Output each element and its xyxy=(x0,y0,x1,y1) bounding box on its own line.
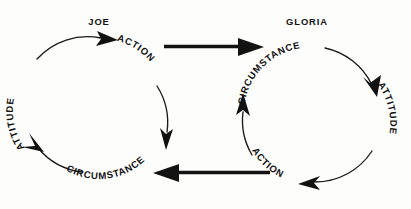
node-label-joe-attitude: ATTITUDE xyxy=(4,97,26,153)
connector-joe-action-to-gloria-circumstance xyxy=(164,38,264,56)
node-label-gloria-action: ACTION xyxy=(250,145,286,179)
node-label-joe-action: ACTION xyxy=(116,32,157,64)
arc-joe-attitude-to-action xyxy=(37,31,118,59)
node-label-joe-circumstance: CIRCUMSTANCE xyxy=(65,153,147,181)
arrowhead-connector-left xyxy=(153,164,179,182)
cycle-diagram: JOE ATTITUDE ACTION xyxy=(0,0,411,209)
arc-gloria-attitude-to-action xyxy=(298,151,372,190)
diagram-canvas: JOE ATTITUDE ACTION xyxy=(0,0,411,209)
arrowhead-connector-right xyxy=(238,38,264,56)
cycle-joe: JOE ATTITUDE ACTION xyxy=(4,16,173,181)
connector-gloria-action-to-joe-circumstance xyxy=(153,164,270,182)
person-label-joe: JOE xyxy=(88,16,109,27)
arrowhead-gloria-action xyxy=(298,176,320,190)
cycle-gloria: GLORIA CIRCUMSTANCE ATTITUDE xyxy=(235,16,399,190)
node-label-gloria-attitude: ATTITUDE xyxy=(376,80,399,136)
arc-joe-action-to-circumstance xyxy=(157,86,173,150)
arrowhead-joe-action xyxy=(96,31,118,46)
arrowhead-joe-attitude xyxy=(22,133,44,152)
arc-gloria-circumstance-to-attitude xyxy=(325,48,381,97)
person-label-gloria: GLORIA xyxy=(286,16,328,27)
